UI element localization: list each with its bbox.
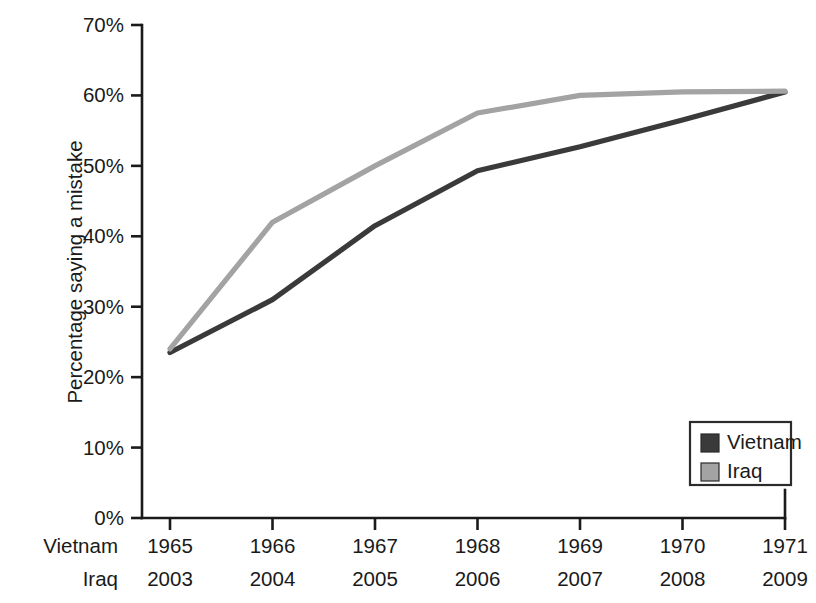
x-axis-row-names: VietnamIraq: [43, 534, 118, 590]
y-tick-label: 40%: [83, 224, 124, 247]
x-tick-label: 2006: [455, 567, 501, 590]
legend-swatch-iraq: [701, 463, 719, 481]
legend-label-vietnam: Vietnam: [727, 430, 802, 453]
x-tick-label: 2008: [660, 567, 706, 590]
x-tick-label: 2003: [147, 567, 193, 590]
legend-swatch-vietnam: [701, 434, 719, 452]
x-tick-label: 1968: [455, 534, 501, 557]
x-axis-row-name: Iraq: [83, 567, 118, 590]
x-tick-label: 1966: [250, 534, 296, 557]
x-tick-label: 1970: [660, 534, 706, 557]
chart-legend: VietnamIraq: [690, 422, 802, 485]
x-tick-label: 1967: [352, 534, 398, 557]
x-tick-label: 1971: [762, 534, 808, 557]
x-axis-row-name: Vietnam: [43, 534, 118, 557]
legend-label-iraq: Iraq: [727, 459, 762, 482]
line-chart: Percentage saying a mistake 0%10%20%30%4…: [0, 0, 816, 603]
y-axis-tick-labels: 0%10%20%30%40%50%60%70%: [83, 13, 124, 529]
x-tick-label: 2005: [352, 567, 398, 590]
y-tick-label: 10%: [83, 436, 124, 459]
series-group: [170, 91, 785, 352]
x-axis-tick-labels: 1965196619671968196919701971200320042005…: [147, 534, 808, 590]
y-tick-label: 0%: [94, 506, 124, 529]
x-tick-label: 2007: [557, 567, 603, 590]
x-tick-label: 1965: [147, 534, 193, 557]
chart-container: Percentage saying a mistake 0%10%20%30%4…: [0, 0, 816, 603]
x-tick-label: 2004: [250, 567, 296, 590]
series-line-iraq: [170, 91, 785, 349]
y-tick-label: 30%: [83, 295, 124, 318]
x-tick-label: 1969: [557, 534, 603, 557]
y-tick-label: 20%: [83, 365, 124, 388]
y-tick-label: 70%: [83, 13, 124, 36]
y-axis-tick-marks: [131, 25, 142, 518]
y-axis-label: Percentage saying a mistake: [63, 140, 86, 403]
x-axis-tick-marks: [170, 518, 785, 530]
y-tick-label: 60%: [83, 83, 124, 106]
x-tick-label: 2009: [762, 567, 808, 590]
y-tick-label: 50%: [83, 154, 124, 177]
series-line-vietnam: [170, 92, 785, 353]
